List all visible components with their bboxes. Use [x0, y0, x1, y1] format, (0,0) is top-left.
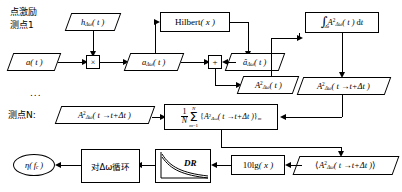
node-integral-label: ∫ΔtA2Δω( t ) dt	[321, 17, 363, 29]
node-dr-label: DR	[184, 158, 197, 168]
label-measure-point-n: 测点N:	[8, 111, 36, 120]
edge-integral-down	[342, 33, 343, 73]
edge-shift-left	[285, 117, 342, 118]
node-hilbert-label: Hilbert( x )	[175, 17, 215, 27]
node-loop-dw: 对Δω循环	[81, 149, 140, 183]
arrowhead-shift-to-average	[280, 114, 286, 120]
node-mean-bracket-label: ⟨A2Δω( t →t+Δt )⟩	[315, 160, 376, 170]
edge-hilbert-down	[248, 22, 249, 52]
node-a-hat-dw-t-label: âΔω( t )	[243, 57, 266, 67]
node-hilbert: Hilbert( x )	[160, 12, 230, 32]
node-a-t-label: a( t )	[26, 57, 43, 67]
edge-average-down	[221, 130, 222, 147]
label-ellipsis: ...	[30, 88, 42, 98]
node-multiply-label: ×	[91, 58, 96, 67]
edge-hilbert-right	[230, 22, 248, 23]
node-average-label: 1N NΣm=1 {A2Δω( t →t+Δt )}m	[181, 106, 261, 127]
node-integral: ∫ΔtA2Δω( t ) dt	[305, 12, 379, 33]
node-A2-dw-shift: A2Δω( t →t+Δt )	[297, 77, 392, 95]
node-a-dw-t: aΔω( t )	[124, 53, 185, 71]
edge-multiply-to-adw	[100, 62, 125, 63]
edge-loop-to-eta	[58, 165, 81, 166]
node-A2-dw-shift-label: A2Δω( t →t+Δt )	[317, 81, 370, 91]
node-A2-dw-shift-n-label: A2Δω( t →t+Δt )	[78, 110, 131, 120]
edge-integral-stub	[299, 33, 300, 38]
node-plus-label: +	[212, 57, 217, 67]
edge-shift-down	[342, 95, 343, 117]
node-plus: +	[208, 55, 222, 69]
flowchart-canvas: 点激励 测点1 ... 测点N: hΔω( t ) Hilbert( x ) ∫…	[0, 0, 402, 192]
arrowhead-ahat-to-plus	[222, 59, 228, 65]
node-average: 1N NΣm=1 {A2Δω( t →t+Δt )}m	[164, 104, 278, 130]
edge-adw-up	[155, 22, 156, 53]
node-h-dw-t: hΔω( t )	[65, 13, 122, 31]
node-a-dw-t-label: aΔω( t )	[142, 57, 165, 67]
edge-a-to-multiply	[58, 62, 84, 63]
arrowhead-mean-to-tenlg	[285, 162, 291, 168]
node-multiply: ×	[86, 55, 100, 69]
node-A2-dw-shift-n: A2Δω( t →t+Δt )	[55, 106, 156, 124]
node-loop-dw-label: 对Δω循环	[91, 160, 131, 172]
node-a-t: a( t )	[7, 53, 62, 71]
edge-plus-down	[215, 69, 216, 85]
label-excitation-line2: 测点1	[10, 21, 34, 30]
node-h-dw-t-label: hΔω( t )	[81, 17, 104, 27]
edge-dr-to-loop	[140, 165, 155, 166]
label-excitation-line1: 点激励	[10, 8, 37, 17]
node-ten-lg: 10lg( x )	[231, 155, 285, 175]
edge-adw-to-plus	[181, 62, 206, 63]
edge-plus-right	[215, 85, 238, 86]
node-mean-bracket: ⟨A2Δω( t →t+Δt )⟩	[293, 156, 400, 175]
node-A2-dw-t-label: A2Δω( t )	[255, 80, 282, 90]
edge-average-right	[221, 147, 341, 148]
node-A2-dw-t: A2Δω( t )	[237, 76, 300, 94]
node-eta-fc-label: η( fc )	[25, 160, 43, 170]
edge-a2dw-right	[271, 38, 299, 39]
edge-tenlg-to-dr	[215, 165, 231, 166]
dr-decay-curve-icon	[156, 150, 210, 182]
edge-h-to-multiply	[93, 31, 94, 52]
arrowhead-a2dw-to-integral	[297, 35, 303, 41]
arrowhead-tenlg-to-dr	[211, 162, 217, 168]
node-ten-lg-label: 10lg( x )	[243, 160, 274, 170]
arrowhead-loop-to-eta	[55, 162, 61, 168]
edge-a2dw-up	[271, 38, 272, 76]
arrowhead-adw-to-hilbert	[154, 19, 160, 25]
node-eta-fc: η( fc )	[13, 154, 55, 176]
node-dr: DR	[155, 149, 211, 183]
